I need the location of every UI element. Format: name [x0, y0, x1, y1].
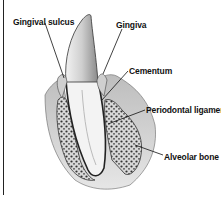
label-gingival-sulcus: Gingival sulcus: [13, 17, 74, 27]
label-cementum: Cementum: [129, 66, 172, 76]
label-alveolar-bone: Alveolar bone: [164, 152, 219, 162]
leader-gingival-sulcus: [45, 23, 64, 78]
label-periodontal-ligament: Periodontal ligamen: [146, 105, 221, 115]
label-gingiva: Gingiva: [116, 20, 146, 30]
leader-gingiva: [103, 29, 122, 74]
tooth-illustration: [0, 0, 221, 198]
